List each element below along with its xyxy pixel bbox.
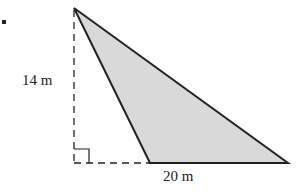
shaded-triangle [74,8,288,163]
base-label: 20 m [163,168,193,185]
triangle-diagram [0,0,302,191]
right-angle-marker [74,149,89,163]
height-label: 14 m [22,72,52,89]
bullet-dot [2,20,6,24]
